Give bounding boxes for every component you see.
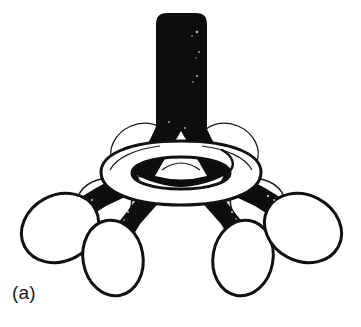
line-drawing-illustration bbox=[0, 0, 361, 327]
figure-panel: (a) bbox=[0, 0, 361, 327]
panel-label: (a) bbox=[12, 283, 36, 302]
